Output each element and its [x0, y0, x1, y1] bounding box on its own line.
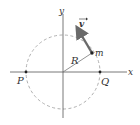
point-p-dot: [25, 71, 28, 74]
point-q-dot: [99, 71, 102, 74]
velocity-vector: [79, 31, 92, 53]
circular-motion-diagram: y x R m P Q v: [0, 0, 140, 125]
y-axis-label: y: [58, 6, 65, 16]
radius-label: R: [70, 55, 79, 66]
velocity-label: v: [79, 19, 85, 29]
particle-dot: [90, 51, 93, 54]
point-p-label: P: [16, 75, 24, 86]
point-q-label: Q: [101, 76, 109, 87]
particle-label: m: [95, 48, 104, 58]
x-axis-label: x: [128, 67, 133, 77]
